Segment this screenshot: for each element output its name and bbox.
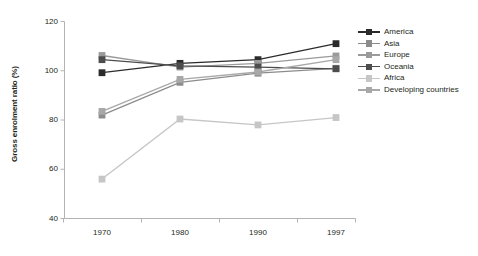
data-point-developing-countries-1990: [255, 69, 262, 76]
legend-marker-icon: [366, 87, 373, 94]
y-tick-label: 40: [32, 214, 58, 223]
y-tick-label: 60: [32, 164, 58, 173]
legend-key-asia: [358, 38, 380, 49]
legend-marker-icon: [366, 64, 373, 71]
legend-marker-icon: [366, 40, 373, 47]
y-tick-label: 100: [32, 66, 58, 75]
data-point-africa-1990: [255, 122, 262, 129]
legend-label-europe: Europe: [384, 49, 410, 61]
legend-label-america: America: [384, 26, 413, 38]
axis-tick-marks: [61, 22, 356, 223]
legend-label-asia: Asia: [384, 38, 400, 50]
x-tick-label: 1997: [316, 228, 356, 237]
legend-label-africa: Africa: [384, 72, 404, 84]
data-point-america-1997: [333, 40, 340, 47]
legend-key-europe: [358, 49, 380, 60]
legend-item-europe[interactable]: Europe: [358, 49, 478, 61]
legend-key-africa: [358, 73, 380, 84]
y-tick-label: 80: [32, 115, 58, 124]
data-point-africa-1980: [177, 116, 184, 123]
x-tick-label: 1970: [82, 228, 122, 237]
data-point-oceania-1980: [177, 62, 184, 69]
legend-item-asia[interactable]: Asia: [358, 38, 478, 50]
data-point-america-1970: [99, 69, 106, 76]
legend-item-africa[interactable]: Africa: [358, 72, 478, 84]
legend-marker-icon: [366, 52, 373, 59]
x-tick-label: 1980: [160, 228, 200, 237]
data-point-developing-countries-1980: [177, 76, 184, 83]
data-point-oceania-1997: [333, 65, 340, 72]
legend-label-developing-countries: Developing countries: [384, 84, 459, 96]
data-point-developing-countries-1970: [99, 108, 106, 115]
legend-marker-icon: [366, 29, 373, 36]
legend-key-developing-countries: [358, 84, 380, 95]
y-tick-label: 120: [32, 17, 58, 26]
data-point-oceania-1970: [99, 56, 106, 63]
legend-item-oceania[interactable]: Oceania: [358, 61, 478, 73]
series-line-africa: [102, 118, 336, 180]
legend-key-oceania: [358, 61, 380, 72]
legend-item-america[interactable]: America: [358, 26, 478, 38]
legend-item-developing-countries[interactable]: Developing countries: [358, 84, 478, 96]
data-point-developing-countries-1997: [333, 56, 340, 63]
series-lines: [102, 44, 336, 179]
data-point-africa-1970: [99, 176, 106, 183]
chart-legend: AmericaAsiaEuropeOceaniaAfricaDeveloping…: [358, 26, 478, 96]
x-tick-label: 1990: [238, 228, 278, 237]
legend-label-oceania: Oceania: [384, 61, 414, 73]
legend-key-america: [358, 26, 380, 37]
legend-marker-icon: [366, 75, 373, 82]
chart-container: Gross enrolment ratio (%) 406080100120 1…: [0, 0, 478, 256]
data-point-africa-1997: [333, 114, 340, 121]
